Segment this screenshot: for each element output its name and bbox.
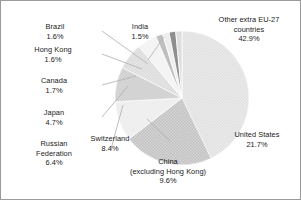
label-india: India 1.5% — [114, 22, 166, 41]
label-china-line1: China — [158, 157, 178, 166]
label-hong-kong-value: 1.6% — [5, 55, 101, 65]
label-japan-value: 4.7% — [7, 118, 101, 128]
label-united-states-value: 21.7% — [215, 140, 299, 150]
label-china: China (excluding Hong Kong) 9.6% — [113, 157, 223, 186]
label-canada-line1: Canada — [41, 76, 67, 85]
label-india-line1: India — [132, 22, 148, 31]
label-russian-federation: Russian Federation 6.4% — [7, 139, 101, 168]
label-china-value: 9.6% — [113, 176, 223, 186]
label-brazil-line1: Brazil — [46, 22, 65, 31]
label-canada-value: 1.7% — [7, 86, 101, 96]
label-canada: Canada 1.7% — [7, 76, 101, 95]
label-other-extra-eu27-line1: Other extra EU-27 — [219, 15, 280, 24]
label-brazil: Brazil 1.6% — [9, 22, 101, 41]
label-other-extra-eu27-value: 42.9% — [200, 34, 298, 44]
label-japan-line1: Japan — [44, 108, 64, 117]
label-united-states-line1: United States — [234, 130, 279, 139]
label-china-line2: (excluding Hong Kong) — [130, 167, 206, 176]
label-united-states: United States 21.7% — [215, 130, 299, 149]
label-brazil-value: 1.6% — [9, 32, 101, 42]
label-india-value: 1.5% — [114, 32, 166, 42]
pie-chart-figure: Other extra EU-27 countries 42.9% United… — [0, 0, 301, 200]
label-russian-federation-line2: Federation — [36, 149, 72, 158]
label-russian-federation-line1: Russian — [40, 139, 67, 148]
label-hong-kong-line1: Hong Kong — [34, 45, 71, 54]
label-russian-federation-value: 6.4% — [7, 158, 101, 168]
label-hong-kong: Hong Kong 1.6% — [5, 45, 101, 64]
label-japan: Japan 4.7% — [7, 108, 101, 127]
label-other-extra-eu27-line2: countries — [234, 25, 264, 34]
label-other-extra-eu27: Other extra EU-27 countries 42.9% — [200, 15, 298, 44]
